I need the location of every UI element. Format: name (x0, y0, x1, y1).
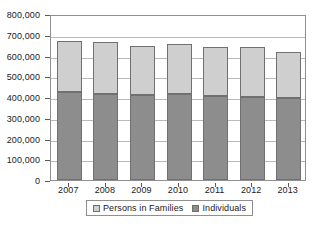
y-axis-tick-mark (45, 77, 50, 78)
bar-segment-individuals (203, 96, 228, 180)
chart-legend: Persons in FamiliesIndividuals (86, 200, 253, 216)
x-axis-tick-label-2011: 2011 (205, 185, 225, 195)
y-axis-tick-mark (45, 57, 50, 58)
y-axis: 0100,000200,000300,000400,000500,000600,… (0, 15, 46, 181)
x-axis-tick-label-2007: 2007 (58, 185, 78, 195)
y-axis-tick-mark (45, 119, 50, 120)
bar-segment-persons-in-families (276, 52, 301, 98)
bar-segment-persons-in-families (93, 42, 118, 94)
bar-segment-individuals (276, 98, 301, 180)
x-axis-tick-label-2009: 2009 (131, 185, 151, 195)
y-axis-tick-label: 700,000 (7, 31, 40, 41)
bar-segment-persons-in-families (57, 41, 82, 92)
bar-segment-individuals (240, 97, 265, 180)
x-axis-tick-label-2012: 2012 (241, 185, 261, 195)
bar-segment-individuals (93, 94, 118, 180)
y-axis-tick-label: 500,000 (7, 72, 40, 82)
bar-group-2013 (276, 14, 301, 180)
legend-label: Individuals (202, 203, 246, 213)
y-axis-tick-mark (45, 140, 50, 141)
bar-group-2011 (203, 14, 228, 180)
y-axis-tick-label: 100,000 (7, 155, 40, 165)
legend-swatch-icon (192, 205, 199, 212)
bar-segment-persons-in-families (203, 47, 228, 96)
y-axis-tick-label: 800,000 (7, 10, 40, 20)
bar-segment-individuals (130, 95, 155, 180)
legend-swatch-icon (93, 205, 100, 212)
stacked-bar-chart: 0100,000200,000300,000400,000500,000600,… (0, 0, 324, 229)
bar-segment-persons-in-families (130, 46, 155, 95)
bar-segment-individuals (167, 94, 192, 180)
y-axis-tick-label: 0 (35, 176, 40, 186)
y-axis-tick-label: 300,000 (7, 114, 40, 124)
bar-group-2007 (57, 14, 82, 180)
bar-segment-individuals (57, 92, 82, 180)
legend-entry-individuals[interactable]: Individuals (192, 203, 246, 213)
legend-entry-persons-in-families[interactable]: Persons in Families (93, 203, 183, 213)
legend-label: Persons in Families (103, 203, 183, 213)
x-axis-tick-label-2013: 2013 (277, 185, 297, 195)
x-axis: 2007200820092010201120122013 (50, 183, 306, 201)
x-axis-tick-label-2010: 2010 (168, 185, 188, 195)
plot-area (50, 15, 306, 181)
y-axis-tick-mark (45, 160, 50, 161)
bar-group-2009 (130, 14, 155, 180)
bar-group-2010 (167, 14, 192, 180)
y-axis-tick-label: 600,000 (7, 52, 40, 62)
y-axis-tick-mark (45, 98, 50, 99)
y-axis-tick-label: 400,000 (7, 93, 40, 103)
y-axis-tick-mark (45, 181, 50, 182)
bar-segment-persons-in-families (240, 47, 265, 97)
bar-group-2012 (240, 14, 265, 180)
x-axis-tick-label-2008: 2008 (95, 185, 115, 195)
bar-segment-persons-in-families (167, 44, 192, 93)
y-axis-tick-mark (45, 36, 50, 37)
bar-group-2008 (93, 14, 118, 180)
y-axis-tick-mark (45, 15, 50, 16)
y-axis-tick-label: 200,000 (7, 135, 40, 145)
